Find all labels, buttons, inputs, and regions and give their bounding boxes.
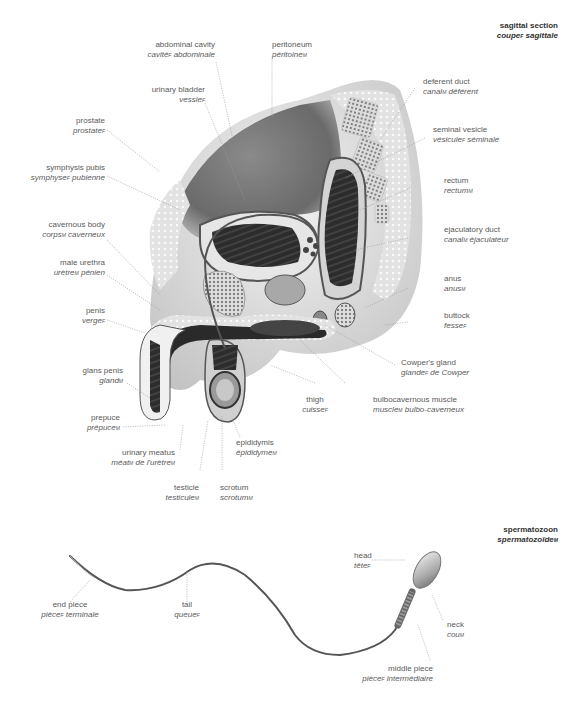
title-en: sagittal section [497, 21, 558, 31]
label-tail: tailqueueF [172, 600, 202, 620]
title-en: spermatozoon [497, 525, 558, 535]
label-male-urethra: male urethraurètreM pénien [54, 258, 105, 278]
label-abdominal-cavity: abdominal cavitycavitéF abdominale [147, 40, 215, 60]
label-cowpers-gland: Cowper's glandglandeF de Cowper [401, 358, 469, 378]
label-prepuce: prepuceprépuceM [87, 413, 120, 433]
label-head: headtêteF [354, 551, 372, 571]
label-bulbocavernous-muscle: bulbocavernous musclemuscleM bulbo-caver… [373, 395, 464, 415]
label-thigh: thighcuisseF [300, 395, 330, 415]
label-urinary-meatus: urinary meatusméatM de l'urètreM [111, 448, 175, 468]
label-prostate: prostateprostateF [73, 116, 105, 136]
label-buttock: buttockfesseF [444, 311, 470, 331]
label-rectum: rectumrectumM [444, 176, 473, 196]
label-urinary-bladder: urinary bladdervessieF [152, 85, 205, 105]
label-peritoneum: peritoneumpéritoineM [272, 40, 312, 60]
label-deferent-duct: deferent ductcanalM déférent [423, 77, 478, 97]
label-penis: penisvergeF [82, 306, 105, 326]
pelvis-section [140, 80, 423, 422]
label-seminal-vesicle: seminal vesiclevésiculeF séminale [433, 125, 499, 145]
label-middle-piece: middle piecepièceF intermédiaire [362, 664, 433, 684]
label-glans-penis: glans penisglandM [83, 366, 123, 386]
title-fr: spermatozoïdeM [497, 535, 558, 545]
label-symphysis-pubis: symphysis pubissymphyseF pubienne [31, 163, 105, 183]
label-testicle: testicletesticuleM [165, 483, 199, 503]
label-scrotum: scrotumscrotumM [220, 483, 253, 503]
sagittal-section-title: sagittal section coupeF sagittale [497, 21, 558, 41]
label-end-piece: end piecepièceF terminale [35, 600, 105, 620]
label-cavernous-body: cavernous bodycorpsM caverneux [42, 220, 105, 240]
label-anus: anusanusM [444, 274, 466, 294]
label-epididymis: epididymisépididymeM [236, 438, 277, 458]
title-fr: coupeF sagittale [497, 31, 558, 41]
spermatozoon-title: spermatozoon spermatozoïdeM [497, 525, 558, 545]
label-neck: neckcouM [447, 620, 464, 640]
label-ejaculatory-duct: ejaculatory ductcanalM éjaculateur [444, 225, 509, 245]
spermatozoon-illustration [70, 547, 447, 655]
